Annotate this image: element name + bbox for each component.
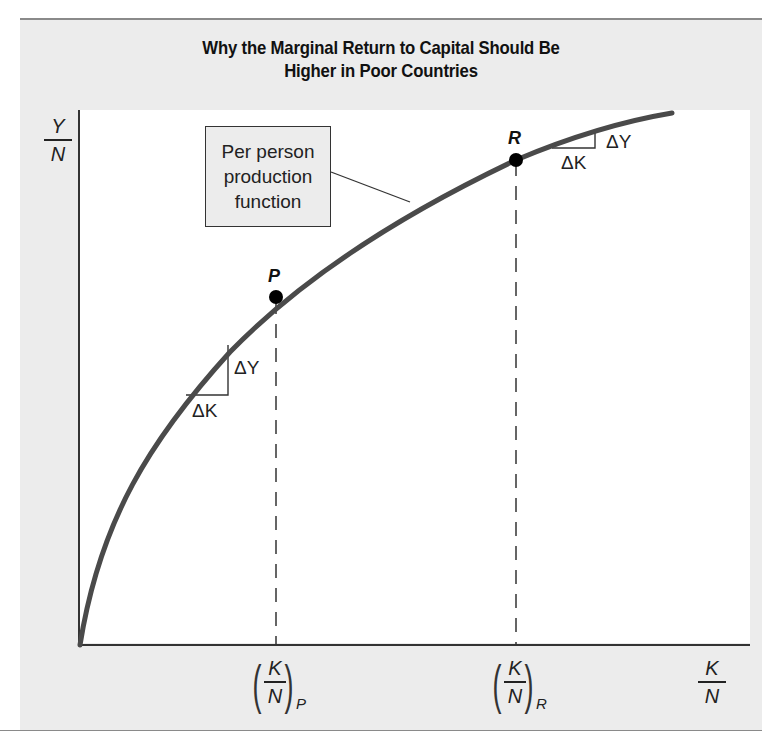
delta-y-label-low: ΔY xyxy=(234,357,259,379)
fraction-bar xyxy=(44,139,72,141)
right-paren: ) xyxy=(524,657,533,711)
x-tick-p: ( K N ) P xyxy=(252,657,312,717)
y-axis-label: Y N xyxy=(44,115,72,165)
point-r-marker xyxy=(509,153,523,167)
fraction-bar xyxy=(698,681,726,683)
x-tick-p-numerator: K xyxy=(264,657,286,679)
delta-k-label-low: ΔK xyxy=(192,400,217,422)
x-label-numerator: K xyxy=(698,657,726,679)
callout-leader-line xyxy=(331,172,410,202)
x-tick-p-subscript: P xyxy=(296,695,306,712)
x-tick-p-fraction: K N xyxy=(264,657,286,707)
callout-line-2: production xyxy=(224,164,313,189)
x-tick-p-denominator: N xyxy=(264,685,286,707)
x-tick-r-denominator: N xyxy=(504,685,526,707)
point-p-marker xyxy=(269,290,283,304)
production-function-callout: Per person production function xyxy=(205,126,331,227)
y-label-numerator: Y xyxy=(44,115,72,137)
right-paren: ) xyxy=(284,657,293,711)
delta-y-label-high: ΔY xyxy=(606,131,631,153)
callout-line-3: function xyxy=(235,189,302,214)
x-tick-r-numerator: K xyxy=(504,657,526,679)
fraction-bar xyxy=(264,681,286,683)
fraction-bar xyxy=(504,681,526,683)
y-label-denominator: N xyxy=(44,143,72,165)
left-paren: ( xyxy=(252,657,261,711)
slope-triangle-low xyxy=(186,345,228,395)
x-tick-r-fraction: K N xyxy=(504,657,526,707)
x-tick-r-subscript: R xyxy=(536,695,547,712)
point-r-label: R xyxy=(508,128,521,149)
delta-k-label-high: ΔK xyxy=(561,152,586,174)
x-tick-r: ( K N ) R xyxy=(492,657,552,717)
x-axis-label: K N xyxy=(698,657,726,707)
left-paren: ( xyxy=(492,657,501,711)
point-p-label: P xyxy=(268,266,280,287)
chart-svg xyxy=(0,0,762,748)
callout-line-1: Per person xyxy=(222,139,315,164)
production-function-curve xyxy=(80,113,672,645)
x-label-denominator: N xyxy=(698,685,726,707)
